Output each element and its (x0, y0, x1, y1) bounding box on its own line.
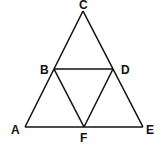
label-b: B (40, 63, 49, 77)
label-e: E (146, 123, 154, 137)
segment-df (84, 69, 113, 127)
segment-bf (54, 69, 84, 127)
label-c: C (79, 0, 88, 12)
label-a: A (11, 123, 20, 137)
triangle-diagram: C B D A E F (0, 0, 162, 147)
label-d: D (121, 63, 130, 77)
label-f: F (80, 131, 87, 145)
